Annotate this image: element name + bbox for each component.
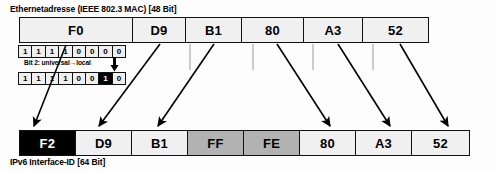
bit-original-4: 0 [72,45,86,58]
bit-original-0: 1 [18,45,32,58]
bit-original-1: 1 [31,45,45,58]
interface-id-byte-6: A3 [355,130,412,156]
interface-id-byte-5: 80 [299,130,356,156]
bit-original-3: 1 [58,45,72,58]
interface-id-byte-2: B1 [131,130,188,156]
mac-to-ipv6-interface-id-diagram: Ethernetadresse (IEEE 802.3 MAC) [48 Bit… [0,0,496,172]
mac-byte-2: B1 [185,17,242,43]
interface-id-caption: IPv6 Interface-ID [64 Bit] [10,157,105,167]
mac-address-caption: Ethernetadresse (IEEE 802.3 MAC) [48 Bit… [10,4,176,14]
mac-byte-1: D9 [132,17,186,43]
interface-id-byte-7: 52 [411,130,470,156]
bit-flipped-6: 1 [98,72,112,85]
mac-byte-3: 80 [241,17,304,43]
interface-id-byte-1: D9 [75,130,132,156]
mac-byte-4: A3 [303,17,363,43]
mac-byte-0: F0 [19,17,133,43]
bit-original-2: 1 [45,45,59,58]
interface-id-byte-4: FE [243,130,300,156]
bit-flipped-5: 0 [85,72,99,85]
bit-flipped-3: 1 [58,72,72,85]
interface-id-byte-row: F2D9B1FFFE80A352 [19,130,469,156]
interface-id-byte-3: FF [187,130,244,156]
bit-2-universal-local-note: Bit 2: universal→local [24,59,91,66]
bit-flipped-7: 0 [112,72,126,85]
bit-original-5: 0 [85,45,99,58]
mac-byte-row: F0D9B180A352 [19,17,428,43]
bit-flipped-1: 1 [31,72,45,85]
bit-row-flipped: 11110010 [18,72,125,85]
cell-tick-marks [190,44,373,70]
bit-flipped-0: 1 [18,72,32,85]
bit-flip-down-arrow-icon [110,57,119,72]
mac-byte-5: 52 [362,17,429,43]
bit-flipped-2: 1 [45,72,59,85]
bit-flipped-4: 0 [72,72,86,85]
interface-id-byte-0: F2 [19,130,76,156]
